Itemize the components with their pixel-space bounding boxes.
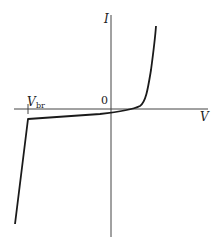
x-axis-label: V [200,110,210,124]
breakdown-voltage-subscript: br [36,101,45,110]
iv-characteristic-diagram: I V 0 V br [0,0,218,247]
origin-label: 0 [101,94,108,107]
y-axis-label: I [103,12,109,26]
iv-curve [15,26,156,224]
